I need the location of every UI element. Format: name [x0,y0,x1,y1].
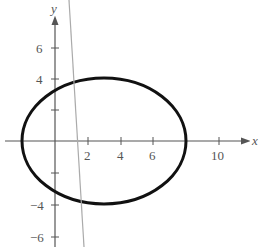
tick-label: −6 [30,230,44,245]
tick-label: −4 [30,198,44,213]
tick-label: 2 [84,148,91,163]
chart: 2 4 6 10 6 4 −4 −6 x y [0,0,265,247]
x-axis-label: x [251,133,258,148]
y-axis-label: y [49,1,57,16]
tick-label: 6 [149,148,156,163]
tick-label: 4 [117,148,124,163]
tick-label: 4 [36,72,43,87]
tick-label: 10 [211,148,224,163]
ticks [51,48,219,237]
tick-label: 6 [36,41,43,56]
line-curve [69,0,84,247]
